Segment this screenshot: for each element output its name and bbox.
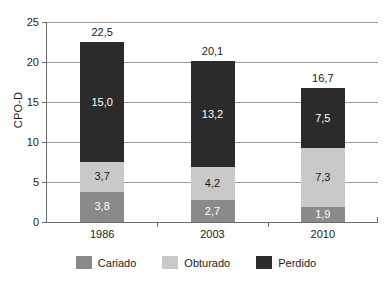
x-axis-label-2010: 2010	[268, 228, 378, 240]
bar-segment-cariado-2003[interactable]: 2,7	[191, 200, 235, 222]
y-tick-label: 0	[33, 217, 39, 228]
bar-segment-cariado-2010[interactable]: 1,9	[301, 207, 345, 222]
legend-item-perdido[interactable]: Perdido	[256, 256, 316, 269]
legend-item-obturado[interactable]: Obturado	[162, 256, 230, 269]
bar-2010[interactable]: 1,97,37,5	[301, 88, 345, 222]
bar-segment-perdido-1986[interactable]: 15,0	[80, 42, 124, 162]
bar-segment-perdido-2003[interactable]: 13,2	[191, 61, 235, 167]
y-tick-mark	[42, 62, 47, 63]
segment-value-label: 15,0	[91, 97, 112, 108]
bar-segment-obturado-2003[interactable]: 4,2	[191, 167, 235, 201]
segment-value-label: 1,9	[315, 209, 330, 220]
legend-swatch-perdido	[256, 256, 272, 269]
segment-value-label: 3,7	[95, 171, 110, 182]
y-tick-label: 20	[27, 57, 39, 68]
cropped-caption-text	[10, 276, 340, 284]
y-tick-label: 10	[27, 137, 39, 148]
y-tick-label: 25	[27, 17, 39, 28]
y-tick-label: 15	[27, 97, 39, 108]
segment-value-label: 7,3	[315, 172, 330, 183]
y-tick-mark	[42, 102, 47, 103]
x-axis-tick	[268, 222, 269, 227]
y-tick-mark	[42, 22, 47, 23]
bar-segment-obturado-2010[interactable]: 7,3	[301, 148, 345, 206]
segment-value-label: 7,5	[315, 113, 330, 124]
x-axis-label-2003: 2003	[157, 228, 267, 240]
legend-item-cariado[interactable]: Cariado	[76, 256, 137, 269]
segment-value-label: 2,7	[205, 206, 220, 217]
y-tick-label: 5	[33, 177, 39, 188]
legend-label: Obturado	[184, 257, 230, 269]
segment-value-label: 13,2	[202, 109, 223, 120]
stacked-bar-chart: CPO-D 05101520253,83,715,022,52,74,213,2…	[0, 0, 392, 286]
bar-total-label-1986: 22,5	[91, 27, 112, 38]
legend-label: Cariado	[98, 257, 137, 269]
y-tick-mark	[42, 222, 47, 223]
bar-segment-perdido-2010[interactable]: 7,5	[301, 88, 345, 148]
gridline	[47, 22, 378, 23]
bar-1986[interactable]: 3,83,715,0	[80, 42, 124, 222]
legend-label: Perdido	[278, 257, 316, 269]
segment-value-label: 3,8	[95, 201, 110, 212]
y-tick-mark	[42, 182, 47, 183]
x-axis-label-1986: 1986	[47, 228, 157, 240]
y-axis-title: CPO-D	[12, 75, 24, 145]
x-axis-line	[46, 222, 378, 223]
bar-segment-cariado-1986[interactable]: 3,8	[80, 192, 124, 222]
segment-value-label: 4,2	[205, 178, 220, 189]
bar-total-label-2010: 16,7	[312, 73, 333, 84]
y-axis-line	[46, 22, 47, 223]
x-axis-end-tick	[377, 217, 378, 223]
bar-segment-obturado-1986[interactable]: 3,7	[80, 162, 124, 192]
legend-swatch-cariado	[76, 256, 92, 269]
plot-area: 05101520253,83,715,022,52,74,213,220,11,…	[47, 22, 378, 222]
bar-total-label-2003: 20,1	[202, 46, 223, 57]
chart-legend: CariadoObturadoPerdido	[0, 256, 392, 269]
x-axis-tick	[157, 222, 158, 227]
bar-2003[interactable]: 2,74,213,2	[191, 61, 235, 222]
y-tick-mark	[42, 142, 47, 143]
legend-swatch-obturado	[162, 256, 178, 269]
